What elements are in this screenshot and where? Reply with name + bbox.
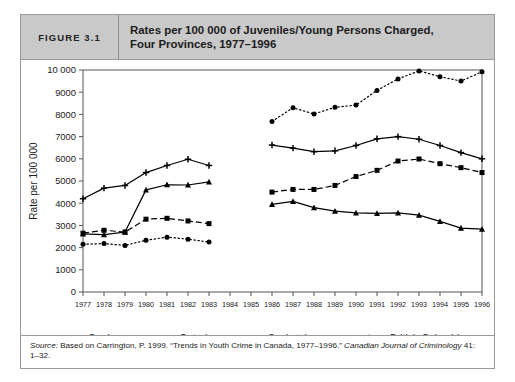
data-point-marker-circle — [81, 242, 86, 247]
data-point-marker-circle — [165, 235, 170, 240]
source-note: Source: Based on Carrington, P. 1999. “T… — [21, 335, 494, 368]
data-point-marker-circle — [354, 103, 359, 108]
data-point-marker-square — [165, 216, 170, 221]
data-point-marker-square — [81, 231, 86, 236]
x-axis-tick-label: 1986 — [264, 300, 280, 309]
x-axis-tick-label: 1995 — [453, 300, 469, 309]
data-point-marker-square — [207, 221, 212, 226]
data-point-marker-circle — [144, 238, 149, 243]
line-chart: 010002000300040005000600070008000900010 … — [21, 60, 494, 328]
data-point-marker-square — [123, 230, 128, 235]
x-axis-tick-label: 1987 — [285, 300, 301, 309]
data-point-marker-circle — [312, 111, 317, 116]
figure-title-line-1: Rates per 100 000 of Juveniles/Young Per… — [130, 23, 484, 38]
figure-header: FIGURE 3.1 Rates per 100 000 of Juvenile… — [21, 15, 494, 60]
x-axis-tick-label: 1982 — [180, 300, 196, 309]
data-point-marker-plus — [269, 142, 275, 148]
x-axis-tick-label: 1992 — [390, 300, 406, 309]
x-axis-tick-label: 1989 — [327, 300, 343, 309]
x-axis-tick-label: 1991 — [369, 300, 385, 309]
x-axis-tick-label: 1996 — [474, 300, 490, 309]
data-point-marker-plus — [143, 169, 149, 175]
source-label: Source: — [30, 341, 58, 350]
series-ontario — [81, 157, 485, 236]
y-axis-tick-label: 8000 — [55, 109, 76, 120]
series-line — [272, 71, 482, 122]
y-axis-tick-label: 3000 — [55, 220, 76, 231]
y-axis-tick-label: 6000 — [55, 153, 76, 164]
data-point-marker-square — [186, 218, 191, 223]
x-axis-tick-label: 1977 — [75, 300, 91, 309]
data-point-marker-circle — [417, 68, 422, 73]
y-axis-tick-label: 0 — [71, 286, 76, 297]
data-point-marker-circle — [459, 79, 464, 84]
data-point-marker-square — [144, 217, 149, 222]
x-axis-tick-label: 1994 — [432, 300, 448, 309]
y-axis-tick-label: 4000 — [55, 198, 76, 209]
x-axis-tick-label: 1990 — [348, 300, 364, 309]
x-axis-tick-label: 1985 — [243, 300, 259, 309]
data-point-marker-square — [270, 190, 275, 195]
data-point-marker-plus — [437, 142, 443, 148]
x-axis-tick-label: 1983 — [201, 300, 217, 309]
x-axis-tick-label: 1993 — [411, 300, 427, 309]
data-point-marker-plus — [416, 136, 422, 142]
data-point-marker-circle — [375, 88, 380, 93]
data-point-marker-circle — [207, 240, 212, 245]
x-axis-tick-label: 1980 — [138, 300, 154, 309]
y-axis-tick-label: 9000 — [55, 87, 76, 98]
x-axis-tick-label: 1988 — [306, 300, 322, 309]
y-axis-tick-label: 5000 — [55, 175, 76, 186]
data-point-marker-plus — [122, 182, 128, 188]
data-point-marker-plus — [164, 162, 170, 168]
figure-title-line-2: Four Provinces, 1977–1996 — [130, 37, 484, 52]
figure-number-label: FIGURE 3.1 — [21, 15, 119, 59]
x-axis-tick-label: 1984 — [222, 300, 238, 309]
figure-container: FIGURE 3.1 Rates per 100 000 of Juvenile… — [20, 14, 495, 369]
series-british-columbia — [80, 133, 485, 202]
data-point-marker-circle — [396, 76, 401, 81]
data-point-marker-plus — [374, 136, 380, 142]
data-point-marker-square — [417, 157, 422, 162]
x-axis-tick-label: 1981 — [159, 300, 175, 309]
data-point-marker-square — [333, 183, 338, 188]
series-line — [272, 159, 482, 192]
data-point-marker-square — [375, 168, 380, 173]
x-axis-tick-label: 1978 — [96, 300, 112, 309]
data-point-marker-plus — [332, 148, 338, 154]
data-point-marker-circle — [270, 119, 275, 124]
data-point-marker-plus — [290, 145, 296, 151]
plot-area: 010002000300040005000600070008000900010 … — [21, 60, 494, 328]
data-point-marker-square — [354, 174, 359, 179]
series-line — [83, 159, 209, 199]
data-point-marker-square — [291, 187, 296, 192]
data-point-marker-plus — [80, 196, 86, 202]
source-journal: Canadian Journal of Criminology — [344, 341, 461, 350]
data-point-marker-circle — [480, 69, 485, 74]
data-point-marker-circle — [438, 74, 443, 79]
data-point-marker-circle — [102, 241, 107, 246]
y-axis-title: Rate per 100 000 — [28, 142, 39, 220]
data-point-marker-plus — [353, 142, 359, 148]
data-point-marker-plus — [185, 156, 191, 162]
data-point-marker-plus — [101, 185, 107, 191]
data-point-marker-triangle — [206, 179, 212, 185]
y-axis-tick-label: 10 000 — [47, 64, 76, 75]
data-point-marker-circle — [123, 243, 128, 248]
series-saskatchewan — [81, 68, 485, 247]
data-point-marker-plus — [395, 133, 401, 139]
data-point-marker-square — [102, 228, 107, 233]
y-axis-tick-label: 2000 — [55, 242, 76, 253]
data-point-marker-plus — [311, 148, 317, 154]
data-point-marker-plus — [206, 162, 212, 168]
data-point-marker-square — [438, 161, 443, 166]
x-axis-tick-label: 1979 — [117, 300, 133, 309]
data-point-marker-circle — [333, 105, 338, 110]
data-point-marker-plus — [458, 149, 464, 155]
data-point-marker-circle — [186, 237, 191, 242]
series-quebec — [80, 179, 485, 238]
data-point-marker-square — [459, 165, 464, 170]
y-axis-tick-label: 1000 — [55, 264, 76, 275]
source-text: Based on Carrington, P. 1999. “Trends in… — [58, 341, 344, 350]
data-point-marker-circle — [291, 105, 296, 110]
